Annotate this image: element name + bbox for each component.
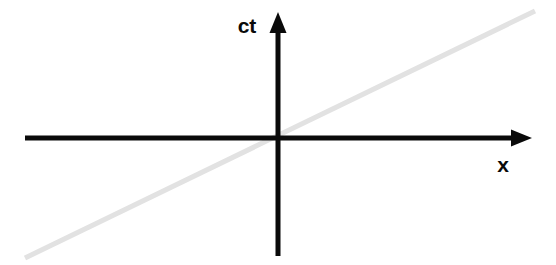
space-axis-label: x: [497, 154, 508, 175]
time-axis-arrowhead-icon: [270, 12, 287, 33]
spacetime-diagram-figure: ct x: [0, 0, 556, 265]
diagram-canvas: [0, 0, 556, 265]
time-axis-label: ct: [238, 15, 256, 36]
space-axis-arrowhead-icon: [511, 130, 532, 147]
